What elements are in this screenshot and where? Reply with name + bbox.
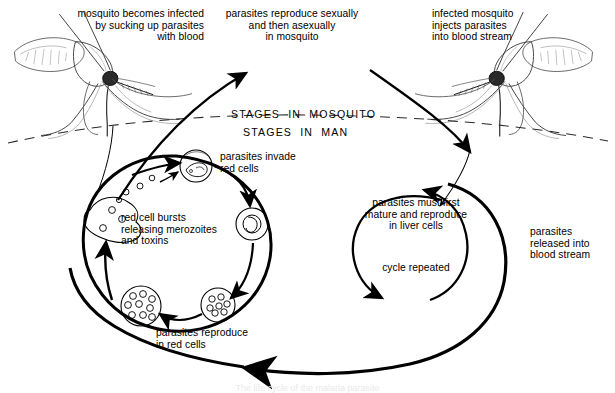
label-parasites-invade-red-cells: parasites invade red cells xyxy=(220,151,340,174)
label-stages-in-man: STAGES IN MAN xyxy=(243,126,348,138)
arrow-burst-upward xyxy=(105,242,112,300)
free-merozoite-c xyxy=(137,183,143,189)
arrow-mature-to-reproduce xyxy=(231,243,253,298)
cell-invaded-red-cell xyxy=(180,150,212,182)
label-red-cell-bursts: red cell bursts releasing merozoites and… xyxy=(121,212,251,247)
label-mosquito-becomes-infected: mosquito becomes infected by sucking up … xyxy=(12,8,204,43)
label-parasites-released-into-blood-stream: parasites released into blood stream xyxy=(530,226,614,261)
arrow-merozoite-small xyxy=(160,172,178,182)
figure-caption: The life cycle of the malaria parasite xyxy=(0,383,615,393)
label-parasites-reproduce-in-mosquito: parasites reproduce sexually and then as… xyxy=(196,8,388,43)
cell-merozoite-filled xyxy=(121,286,161,326)
label-infected-mosquito-injects: infected mosquito injects parasites into… xyxy=(432,8,592,43)
arrow-to-man xyxy=(370,70,470,152)
arrow-reproduce-to-burst xyxy=(160,314,202,320)
label-parasites-reproduce-in-red-cells: parasites reproduce in red cells xyxy=(156,327,286,350)
label-stages-in-mosquito: STAGES IN MOSQUITO xyxy=(231,108,376,120)
cell-schizont xyxy=(201,288,235,322)
label-parasites-mature-in-liver-cells: parasites must first mature and reproduc… xyxy=(358,197,474,232)
label-cycle-repeated: cycle repeated xyxy=(358,262,474,274)
free-merozoite-d xyxy=(149,175,155,181)
